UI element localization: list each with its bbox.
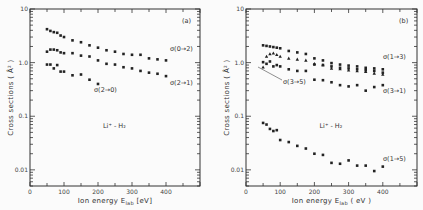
x-tick-label: 300 — [126, 188, 138, 195]
data-point — [364, 69, 367, 72]
data-point — [105, 63, 108, 66]
data-point — [88, 78, 91, 81]
data-point — [272, 46, 275, 49]
data-point — [305, 147, 308, 150]
series-label: σ(2→0) — [94, 86, 117, 94]
series-1 — [46, 48, 168, 77]
data-point — [262, 122, 265, 125]
data-point — [265, 55, 268, 58]
x-tick-label: 400 — [377, 188, 389, 195]
panel-1: 01002003004000.010.11.010σ(1→3)σ(3→5)σ(3… — [222, 5, 417, 206]
data-point — [262, 61, 265, 64]
data-point — [80, 41, 83, 44]
data-point — [305, 53, 308, 56]
data-point — [279, 65, 282, 68]
data-point — [313, 57, 316, 60]
data-point — [156, 72, 159, 75]
x-axis-label: Ion energy Elab ( eV ) — [292, 197, 372, 206]
x-tick-label: 0 — [244, 188, 248, 195]
data-point — [165, 59, 168, 62]
data-point — [56, 49, 59, 52]
data-point — [265, 45, 268, 48]
data-point — [347, 64, 350, 67]
plot-frame — [30, 9, 200, 186]
figure: 01002003004000.010.11.010σ(0→2)σ(2→1)σ(2… — [0, 0, 423, 210]
x-tick-label: 300 — [343, 188, 355, 195]
panel-tag: (b) — [399, 17, 408, 25]
series-label: σ(0→2) — [170, 45, 193, 53]
data-point — [330, 62, 333, 65]
data-point — [322, 59, 325, 62]
y-tick-label: 0.1 — [18, 112, 28, 119]
data-point — [63, 70, 66, 73]
data-point — [279, 139, 282, 142]
data-point — [272, 51, 275, 54]
data-point — [71, 52, 74, 55]
data-point — [49, 48, 52, 51]
data-point — [122, 66, 125, 69]
data-point — [364, 67, 367, 70]
data-point — [330, 162, 333, 165]
data-point — [114, 50, 117, 53]
data-point — [382, 165, 385, 168]
data-point — [59, 70, 62, 73]
data-point — [71, 74, 74, 77]
data-point — [269, 60, 272, 63]
data-point — [46, 28, 49, 31]
data-point — [165, 75, 168, 78]
x-tick-label: 0 — [28, 188, 32, 195]
x-tick-label: 100 — [58, 188, 70, 195]
data-point — [261, 65, 264, 68]
data-point — [339, 162, 342, 165]
data-point — [97, 59, 100, 62]
data-point — [63, 52, 66, 55]
data-point — [373, 70, 376, 73]
data-point — [296, 58, 299, 61]
data-point — [148, 57, 151, 60]
data-point — [313, 152, 316, 155]
series-label: σ(1→5) — [383, 155, 406, 163]
data-point — [382, 68, 385, 71]
data-point — [322, 79, 325, 82]
data-point — [275, 46, 278, 49]
series-1 — [261, 51, 384, 75]
y-tick-label: 1.0 — [234, 59, 244, 66]
data-point — [139, 70, 142, 73]
data-point — [148, 71, 151, 74]
data-point — [339, 63, 342, 66]
data-point — [105, 49, 108, 52]
data-point — [322, 64, 325, 67]
data-point — [279, 47, 282, 50]
data-point — [80, 73, 83, 76]
series-label: σ(3→1) — [383, 87, 406, 95]
series-0 — [46, 28, 168, 62]
data-point — [356, 65, 359, 68]
series-label: σ(3→5) — [283, 78, 306, 86]
data-point — [287, 57, 290, 60]
data-point — [268, 52, 271, 55]
data-point — [347, 159, 350, 162]
data-point — [296, 51, 299, 54]
y-tick-label: 10 — [236, 5, 244, 12]
data-point — [131, 53, 134, 56]
data-point — [46, 63, 49, 66]
y-tick-label: 10 — [20, 5, 28, 12]
data-point — [122, 53, 125, 56]
data-point — [287, 68, 290, 71]
data-point — [313, 78, 316, 81]
series-3 — [313, 78, 384, 92]
data-point — [287, 141, 290, 144]
data-point — [373, 170, 376, 173]
data-point — [53, 67, 56, 70]
data-point — [373, 67, 376, 70]
data-point — [53, 48, 56, 51]
data-point — [304, 59, 307, 62]
data-point — [330, 81, 333, 84]
data-point — [322, 154, 325, 157]
x-tick-label: 200 — [92, 188, 104, 195]
data-point — [265, 123, 268, 126]
leader-line — [258, 67, 282, 80]
data-point — [373, 86, 376, 89]
data-point — [88, 55, 91, 58]
data-point — [88, 44, 91, 47]
